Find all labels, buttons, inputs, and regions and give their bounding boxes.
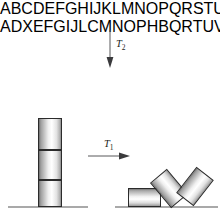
middle-block — [38, 150, 62, 180]
transform-t2-subscript: 2 — [122, 43, 126, 52]
transformation-figure: ABCDEFGHIJKLMNOPQRSTUVWXYZ T2 ADXEFGIJLC… — [0, 0, 220, 220]
lower-block — [38, 180, 62, 207]
transform-t1-label: T1 — [104, 138, 114, 152]
transform-t1-subscript: 1 — [110, 143, 114, 152]
upper-block — [38, 118, 62, 150]
input-sequence-text: ABCDEFGHIJKLMNOPQRSTUVWXYZ — [0, 0, 220, 18]
leaning-right-block — [176, 167, 214, 207]
transform-t2-label: T2 — [116, 38, 126, 52]
arrow-down-icon — [104, 30, 116, 68]
